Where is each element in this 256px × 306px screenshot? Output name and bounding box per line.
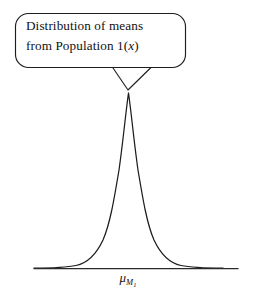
callout-line-2-prefix: from Population 1(: [26, 38, 128, 53]
callout-line-2-suffix: ): [134, 38, 139, 53]
distribution-figure: Distribution of means from Population 1(…: [0, 0, 256, 306]
normal-distribution-curve: [34, 93, 223, 268]
callout-text-block: Distribution of means from Population 1(…: [26, 16, 178, 56]
subscript-index: 1: [133, 281, 136, 288]
callout-line-2: from Population 1(x): [26, 36, 178, 56]
mu-subscript-m: M1: [126, 277, 136, 287]
x-axis-label: μM1: [0, 270, 256, 292]
callout-line-1: Distribution of means: [26, 16, 178, 36]
